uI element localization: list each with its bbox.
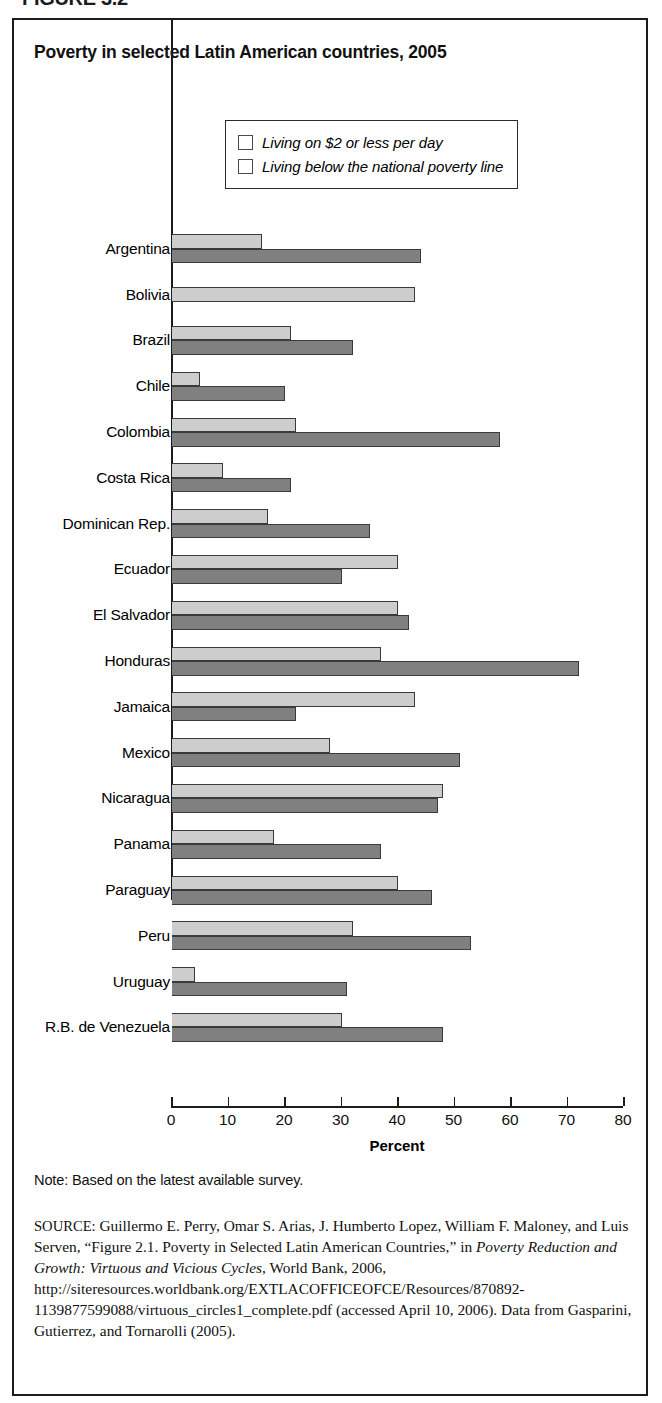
bar-pair — [172, 730, 602, 776]
category-label: Paraguay — [105, 881, 170, 899]
bar — [172, 555, 398, 570]
bar-pair — [172, 638, 602, 684]
bar-pair — [172, 776, 602, 822]
bar-group: Bolivia — [14, 272, 645, 318]
x-axis-tick — [171, 1097, 173, 1106]
bar — [172, 753, 460, 768]
category-label: R.B. de Venezuela — [45, 1018, 170, 1036]
bar — [172, 463, 223, 478]
bar — [172, 1013, 342, 1028]
bar — [172, 524, 370, 539]
bar-group: Costa Rica — [14, 455, 645, 501]
category-label: Honduras — [104, 652, 170, 670]
figure-frame: Poverty in selected Latin American count… — [12, 18, 648, 1396]
bar-group: Chile — [14, 363, 645, 409]
chart-source: SOURCE: Guillermo E. Perry, Omar S. Aria… — [34, 1216, 634, 1342]
bar-pair — [172, 363, 602, 409]
category-label: Colombia — [106, 423, 170, 441]
bar — [172, 615, 409, 630]
bar — [172, 830, 274, 845]
bar-group: Mexico — [14, 730, 645, 776]
bar-pair — [172, 409, 602, 455]
bar — [172, 418, 296, 433]
legend-item-label: Living below the national poverty line — [262, 158, 503, 175]
legend-swatch-dark-icon — [238, 159, 253, 174]
category-label: Mexico — [122, 744, 170, 762]
bar-pair — [172, 959, 602, 1005]
bar — [172, 569, 342, 584]
bar-pair — [172, 226, 602, 272]
x-axis-tick — [228, 1097, 230, 1106]
legend-swatch-light-icon — [238, 135, 253, 150]
bar — [172, 967, 195, 982]
bar-group: Brazil — [14, 318, 645, 364]
bar-group: Peru — [14, 913, 645, 959]
plot-area: ArgentinaBoliviaBrazilChileColombiaCosta… — [14, 226, 645, 1106]
category-label: Costa Rica — [96, 469, 170, 487]
bar-group: R.B. de Venezuela — [14, 1005, 645, 1051]
category-label: Brazil — [132, 331, 170, 349]
legend-item: Living on $2 or less per day — [238, 130, 503, 154]
bar — [172, 921, 353, 936]
bar — [172, 249, 421, 264]
category-label: Chile — [136, 377, 170, 395]
x-axis-tick-label: 20 — [275, 1111, 292, 1129]
category-label: Nicaragua — [101, 789, 170, 807]
chart-legend: Living on $2 or less per day Living belo… — [225, 120, 518, 189]
bar-pair — [172, 592, 602, 638]
x-axis-tick — [623, 1097, 625, 1106]
x-axis-tick — [341, 1097, 343, 1106]
bar — [172, 509, 268, 524]
x-axis-tick-label: 80 — [614, 1111, 631, 1129]
bar-group: El Salvador — [14, 592, 645, 638]
x-axis-tick-label: 10 — [219, 1111, 236, 1129]
bar-pair — [172, 455, 602, 501]
bar — [172, 386, 285, 401]
figure-caption: FIGURE 3.2 — [22, 0, 128, 10]
category-label: El Salvador — [93, 606, 170, 624]
x-axis-tick-label: 50 — [445, 1111, 462, 1129]
bar-group: Colombia — [14, 409, 645, 455]
chart-title: Poverty in selected Latin American count… — [34, 42, 646, 63]
bar — [172, 478, 291, 493]
category-label: Peru — [138, 927, 170, 945]
bar-group: Panama — [14, 821, 645, 867]
x-axis-spine — [171, 1106, 623, 1108]
x-axis-tick — [284, 1097, 286, 1106]
bar — [172, 784, 443, 799]
bar-pair — [172, 821, 602, 867]
category-label: Argentina — [105, 240, 170, 258]
bar — [172, 234, 262, 249]
bar-pair — [172, 867, 602, 913]
bar-group: Jamaica — [14, 684, 645, 730]
category-label: Panama — [113, 835, 170, 853]
bar — [172, 601, 398, 616]
bar-pair — [172, 1005, 602, 1051]
x-axis-title: Percent — [171, 1137, 623, 1154]
x-axis-tick — [454, 1097, 456, 1106]
x-axis-tick — [510, 1097, 512, 1106]
bar — [172, 798, 438, 813]
bar — [172, 844, 381, 859]
bar-group: Dominican Rep. — [14, 501, 645, 547]
bar — [172, 432, 500, 447]
bar-pair — [172, 684, 602, 730]
legend-item-label: Living on $2 or less per day — [262, 134, 443, 151]
bar-group: Nicaragua — [14, 776, 645, 822]
bar — [172, 982, 347, 997]
bar — [172, 287, 415, 302]
category-label: Bolivia — [126, 286, 170, 304]
bar-group: Paraguay — [14, 867, 645, 913]
x-axis-tick — [397, 1097, 399, 1106]
x-axis-tick-label: 0 — [167, 1111, 176, 1129]
category-label: Uruguay — [113, 973, 170, 991]
bar-pair — [172, 547, 602, 593]
bar-pair — [172, 318, 602, 364]
bar — [172, 876, 398, 891]
bar-pair — [172, 913, 602, 959]
bar-group: Honduras — [14, 638, 645, 684]
bar — [172, 936, 471, 951]
bar — [172, 738, 330, 753]
bar-group: Ecuador — [14, 547, 645, 593]
bar-group: Argentina — [14, 226, 645, 272]
